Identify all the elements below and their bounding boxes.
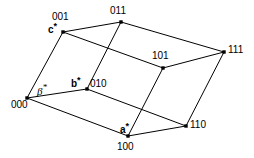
vertex-label-110: 110 xyxy=(190,119,206,130)
vertex-marker-011 xyxy=(119,20,122,23)
cell-edge-100-110 xyxy=(128,126,186,136)
vertex-marker-110 xyxy=(184,124,187,127)
cell-edge-001-011 xyxy=(63,22,121,32)
vertex-label-100: 100 xyxy=(117,141,134,152)
angle-label-beta: β* xyxy=(37,86,47,97)
cell-edge-101-111 xyxy=(163,52,224,68)
vertex-marker-001 xyxy=(61,30,64,33)
angle-star: * xyxy=(42,82,47,92)
vertex-marker-101 xyxy=(161,66,164,69)
reciprocal-lattice-figure: 000001010011100101110111 a*b*c* β* xyxy=(0,0,254,158)
vertex-marker-111 xyxy=(222,50,225,53)
axis-vector-label-a: a* xyxy=(120,124,129,135)
cell-edge-110-111 xyxy=(186,52,224,126)
axis-vector-label-b: b* xyxy=(71,78,81,89)
axis-vector-star: * xyxy=(77,75,81,85)
cell-edge-011-111 xyxy=(121,22,224,52)
vertex-label-000: 000 xyxy=(11,99,28,110)
axis-vector-star: * xyxy=(54,21,58,31)
vertex-label-010: 010 xyxy=(90,78,107,89)
vertex-label-101: 101 xyxy=(152,50,169,61)
vertex-marker-010 xyxy=(85,87,88,90)
axis-vector-star: * xyxy=(126,121,130,131)
cell-edge-100-101 xyxy=(128,68,163,136)
vertex-label-011: 011 xyxy=(110,5,126,16)
axis-vector-label-c: c* xyxy=(48,24,57,35)
vertex-label-111: 111 xyxy=(228,44,243,55)
cell-edge-000-100 xyxy=(27,98,128,136)
cell-edge-000-010 xyxy=(27,89,87,98)
